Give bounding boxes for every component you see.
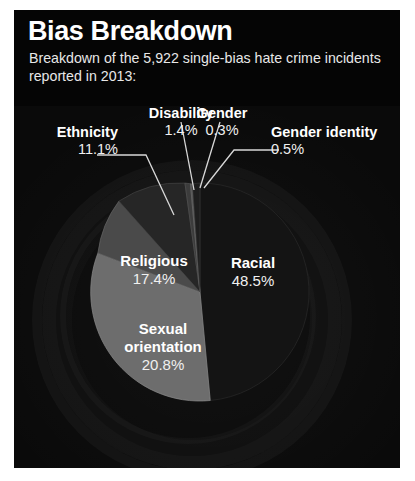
label-gender-identity-percent: 0.5%: [271, 141, 400, 158]
label-ethnicity-name: Ethnicity: [14, 124, 118, 141]
label-gender: Gender 0.3%: [186, 105, 258, 138]
label-ethnicity-percent: 11.1%: [14, 141, 118, 158]
label-gender-name: Gender: [186, 105, 258, 122]
label-religious-name: Religious: [99, 252, 209, 270]
label-racial: Racial 48.5%: [207, 254, 299, 290]
chart-panel: Bias Breakdown Breakdown of the 5,922 si…: [14, 10, 400, 468]
label-racial-percent: 48.5%: [207, 272, 299, 290]
label-gender-identity: Gender identity 0.5%: [271, 124, 400, 157]
label-religious: Religious 17.4%: [99, 252, 209, 288]
pie-chart: [14, 10, 400, 468]
label-sexual-orientation-name2: orientation: [101, 338, 225, 356]
label-ethnicity: Ethnicity 11.1%: [14, 124, 118, 157]
label-gender-identity-name: Gender identity: [271, 124, 400, 141]
label-gender-percent: 0.3%: [186, 122, 258, 139]
label-sexual-orientation-percent: 20.8%: [101, 356, 225, 374]
infographic-root: Bias Breakdown Breakdown of the 5,922 si…: [0, 0, 415, 481]
label-racial-name: Racial: [207, 254, 299, 272]
label-religious-percent: 17.4%: [99, 270, 209, 288]
label-sexual-orientation-name: Sexual: [101, 320, 225, 338]
label-sexual-orientation: Sexual orientation 20.8%: [101, 320, 225, 374]
